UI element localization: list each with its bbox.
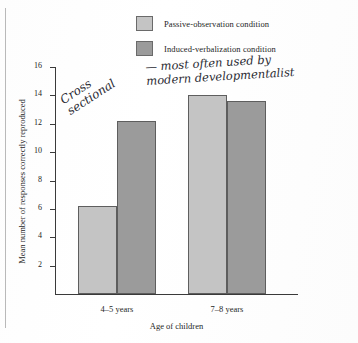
x-axis-title: Age of children (55, 321, 298, 331)
y-axis-title: Mean number of responses correctly repro… (17, 68, 27, 295)
y-tick-label-4: 4 (38, 231, 42, 240)
legend-swatch-passive-icon (136, 16, 153, 31)
legend-swatch-induced-icon (136, 41, 153, 56)
y-tick-12: 12 (50, 124, 56, 125)
bar-2-2 (227, 101, 266, 294)
bar-1-2 (117, 121, 156, 294)
chart-legend: Passive-observation condition Induced-ve… (136, 13, 351, 63)
y-tick-label-10: 10 (34, 146, 42, 155)
y-tick-label-16: 16 (34, 61, 42, 70)
y-axis-line (55, 68, 56, 295)
bar-chart-figure: Passive-observation condition Induced-ve… (0, 0, 358, 343)
legend-item-induced-verbalization: Induced-verbalization condition (136, 38, 351, 59)
x-axis-line (55, 294, 298, 295)
bar-1-1 (78, 206, 117, 294)
y-tick-label-6: 6 (38, 203, 42, 212)
y-tick-label-14: 14 (34, 89, 42, 98)
legend-label-induced: Induced-verbalization condition (164, 44, 276, 54)
y-tick-14: 14 (50, 95, 56, 96)
y-tick-6: 6 (50, 209, 56, 210)
bar-2-1 (188, 95, 227, 294)
x-category-label-2: 7–8 years (174, 304, 280, 314)
plot-area: 246810121416 4–5 years7–8 years Mean num… (55, 68, 298, 295)
y-tick-label-12: 12 (34, 118, 42, 127)
y-tick-label-2: 2 (38, 260, 42, 269)
legend-label-passive: Passive-observation condition (164, 19, 269, 29)
y-tick-2: 2 (50, 266, 56, 267)
y-tick-8: 8 (50, 181, 56, 182)
y-tick-label-8: 8 (38, 175, 42, 184)
legend-item-passive-observation: Passive-observation condition (136, 13, 351, 34)
x-category-label-1: 4–5 years (64, 304, 170, 314)
y-tick-16: 16 (50, 67, 56, 68)
y-tick-10: 10 (50, 152, 56, 153)
y-tick-4: 4 (50, 237, 56, 238)
